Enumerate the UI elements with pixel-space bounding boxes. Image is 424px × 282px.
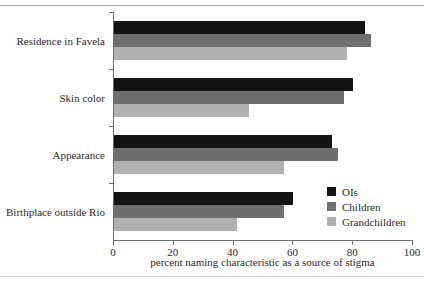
bar (114, 104, 249, 117)
legend-label: Children (342, 201, 381, 213)
bar-group (114, 78, 413, 117)
x-axis-tick (292, 240, 293, 245)
y-axis-tick (109, 12, 114, 13)
legend-item: OIs (327, 184, 406, 199)
category-label: Birthplace outside Rio (6, 206, 105, 218)
x-axis-tick (412, 240, 413, 245)
bar (114, 148, 338, 161)
legend-swatch-icon (327, 187, 336, 196)
bar (114, 21, 365, 34)
chart-legend: OIsChildrenGrandchildren (327, 184, 406, 229)
chart-figure: 020406080100 Residence in FavelaSkin col… (0, 0, 424, 282)
legend-swatch-icon (327, 202, 336, 211)
legend-item: Children (327, 199, 406, 214)
legend-label: Grandchildren (342, 216, 406, 228)
x-axis-line (113, 240, 413, 241)
y-axis-tick (109, 183, 114, 184)
x-axis-tick (113, 240, 114, 245)
bottom-divider-rule (0, 276, 424, 277)
bar (114, 135, 332, 148)
bar (114, 205, 284, 218)
y-axis-tick (109, 126, 114, 127)
category-label: Residence in Favela (16, 35, 105, 47)
bar (114, 78, 353, 91)
legend-swatch-icon (327, 217, 336, 226)
x-axis-tick (233, 240, 234, 245)
x-axis-title: percent naming characteristic as a sourc… (113, 256, 412, 268)
bar (114, 34, 371, 47)
top-divider-rule (0, 5, 424, 6)
bar (114, 161, 284, 174)
bar (114, 192, 293, 205)
category-label: Skin color (59, 92, 105, 104)
category-label: Appearance (52, 149, 105, 161)
bar (114, 218, 237, 231)
bar (114, 91, 344, 104)
y-axis-tick (109, 69, 114, 70)
legend-label: OIs (342, 186, 358, 198)
bar-group (114, 21, 413, 60)
x-axis-tick (173, 240, 174, 245)
legend-item: Grandchildren (327, 214, 406, 229)
x-axis-tick (352, 240, 353, 245)
bar-group (114, 135, 413, 174)
bar (114, 47, 347, 60)
